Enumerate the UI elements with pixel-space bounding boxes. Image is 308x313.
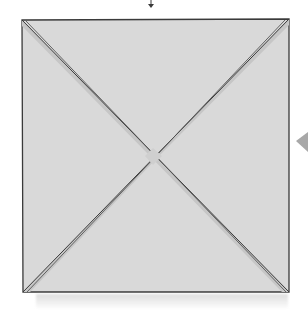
diagram-svg — [0, 0, 308, 313]
fold-diagram — [0, 0, 308, 313]
paper-shadow — [36, 294, 288, 308]
down-arrow-icon — [148, 0, 154, 8]
pointer-triangle-icon — [296, 132, 308, 152]
